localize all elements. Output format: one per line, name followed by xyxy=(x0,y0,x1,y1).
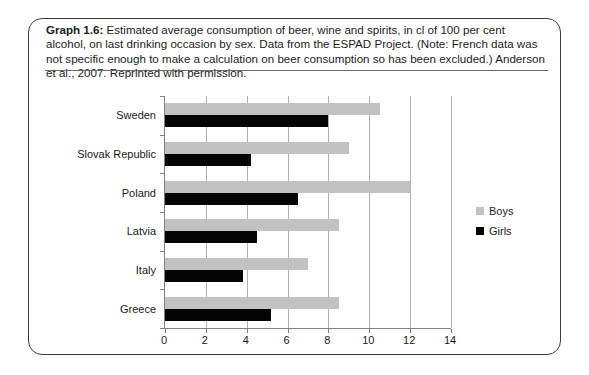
x-axis-tick-label: 10 xyxy=(362,334,374,346)
boys-bar xyxy=(165,142,349,154)
x-axis-tick-label: 6 xyxy=(284,334,290,346)
category-labels: SwedenSlovak RepublicPolandLatviaItalyGr… xyxy=(29,96,156,328)
girls-bar xyxy=(165,154,251,166)
bar-group xyxy=(165,96,451,135)
girls-bar xyxy=(165,231,257,243)
girls-bar xyxy=(165,193,298,205)
legend-label: Boys xyxy=(489,205,513,217)
x-axis-tick xyxy=(410,329,411,333)
x-axis-tick xyxy=(165,329,166,333)
boys-bar xyxy=(165,297,339,309)
y-axis-tick xyxy=(160,173,164,174)
x-axis-tick-label: 14 xyxy=(444,334,456,346)
boys-bar xyxy=(165,181,410,193)
x-axis-tick xyxy=(451,329,452,333)
x-axis-labels: 02468101214 xyxy=(164,334,450,348)
y-axis-tick xyxy=(160,212,164,213)
y-axis-tick xyxy=(160,328,164,329)
boys-bar xyxy=(165,219,339,231)
x-axis-tick-label: 8 xyxy=(324,334,330,346)
y-axis-tick xyxy=(160,96,164,97)
bar-group xyxy=(165,135,451,174)
legend-marker-girls xyxy=(476,227,484,235)
category-label: Latvia xyxy=(29,212,156,251)
category-label: Slovak Republic xyxy=(29,135,156,174)
legend: BoysGirls xyxy=(476,201,513,241)
bar-group xyxy=(165,289,451,328)
girls-bar xyxy=(165,309,271,321)
category-label: Poland xyxy=(29,173,156,212)
bar-group xyxy=(165,251,451,290)
figure-frame: Graph 1.6: Estimated average consumption… xyxy=(28,18,561,355)
plot-area xyxy=(164,96,451,329)
category-label: Italy xyxy=(29,251,156,290)
x-axis-tick xyxy=(369,329,370,333)
category-label: Greece xyxy=(29,289,156,328)
y-axis-tick xyxy=(160,289,164,290)
x-axis-tick xyxy=(288,329,289,333)
boys-bar xyxy=(165,103,380,115)
legend-marker-boys xyxy=(476,207,484,215)
legend-item: Girls xyxy=(476,221,513,241)
x-axis-tick-label: 2 xyxy=(202,334,208,346)
category-label: Sweden xyxy=(29,96,156,135)
bar-chart: SwedenSlovak RepublicPolandLatviaItalyGr… xyxy=(29,19,560,354)
gridline xyxy=(451,96,452,328)
legend-item: Boys xyxy=(476,201,513,221)
x-axis-tick-label: 12 xyxy=(403,334,415,346)
x-axis-tick xyxy=(206,329,207,333)
legend-label: Girls xyxy=(489,225,512,237)
girls-bar xyxy=(165,115,328,127)
x-axis-tick-label: 0 xyxy=(161,334,167,346)
x-axis-tick xyxy=(328,329,329,333)
boys-bar xyxy=(165,258,308,270)
girls-bar xyxy=(165,270,243,282)
bar-group xyxy=(165,212,451,251)
x-axis-tick xyxy=(247,329,248,333)
y-axis-tick xyxy=(160,135,164,136)
y-axis-tick xyxy=(160,251,164,252)
bar-group xyxy=(165,173,451,212)
x-axis-tick-label: 4 xyxy=(243,334,249,346)
bar-rows xyxy=(165,96,451,328)
